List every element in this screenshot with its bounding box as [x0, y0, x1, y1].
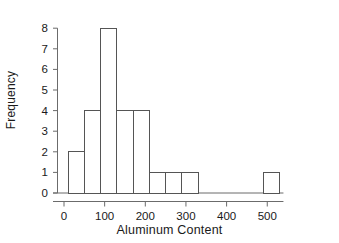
- plot-canvas: [0, 0, 339, 243]
- y-axis-tick-label: 3: [32, 125, 48, 137]
- x-axis-tick-label: 100: [90, 210, 120, 222]
- histogram-bar: [84, 111, 100, 193]
- x-axis-tick-label: 500: [252, 210, 282, 222]
- y-axis-tick-label: 6: [32, 63, 48, 75]
- y-axis-tick-label: 4: [32, 105, 48, 117]
- histogram-bar: [149, 172, 165, 193]
- x-axis-tick-label: 0: [49, 210, 79, 222]
- histogram-bar: [263, 172, 279, 193]
- histogram-bar: [68, 152, 84, 193]
- histogram-bar: [101, 28, 117, 193]
- x-axis-tick-label: 400: [212, 210, 242, 222]
- y-axis-tick-label: 0: [32, 187, 48, 199]
- y-axis-tick-label: 5: [32, 84, 48, 96]
- y-axis-tick-label: 8: [32, 22, 48, 34]
- histogram-bar: [182, 172, 198, 193]
- x-axis-tick-label: 300: [171, 210, 201, 222]
- x-axis-tick-label: 200: [130, 210, 160, 222]
- histogram-bar: [133, 111, 149, 193]
- histogram-bar: [117, 111, 133, 193]
- y-axis-tick-label: 1: [32, 166, 48, 178]
- histogram-bar: [166, 172, 182, 193]
- y-axis-tick-label: 2: [32, 146, 48, 158]
- histogram-bars: [68, 28, 279, 193]
- histogram-figure: Frequency Aluminum Content 012345678 010…: [0, 0, 339, 243]
- y-axis-tick-label: 7: [32, 43, 48, 55]
